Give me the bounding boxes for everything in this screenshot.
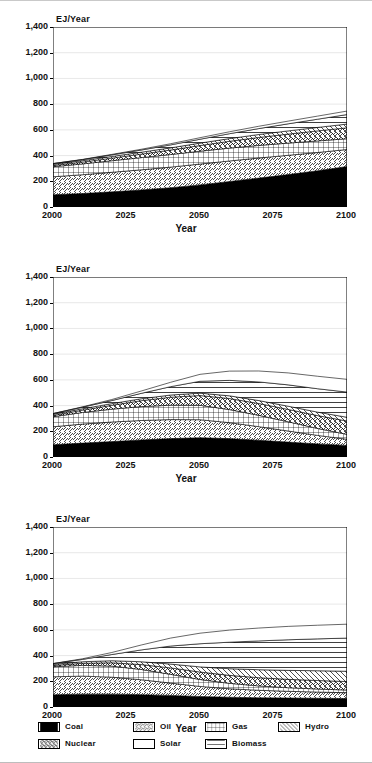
y-tick-label: 0 [0, 701, 48, 711]
y-tick-mark [50, 380, 53, 381]
legend-swatch-diagonal-back [278, 722, 300, 732]
y-tick-label: 1,000 [0, 72, 48, 82]
y-tick-label: 800 [0, 98, 48, 108]
y-tick-mark [50, 527, 53, 528]
y-tick-mark [50, 207, 53, 208]
y-tick-mark [50, 604, 53, 605]
y-tick-label: 1,200 [0, 547, 48, 557]
x-tick-label: 2025 [116, 210, 136, 220]
y-tick-label: 1,400 [0, 21, 48, 31]
y-tick-label: 1,400 [0, 271, 48, 281]
y-tick-mark [50, 181, 53, 182]
y-tick-mark [50, 354, 53, 355]
y-tick-label: 200 [0, 675, 48, 685]
legend-label: Nuclear [65, 739, 96, 748]
x-axis-label: Year [0, 223, 372, 234]
legend: Coal Oil [0, 718, 372, 758]
legend-item-biomass[interactable]: Biomass [205, 735, 267, 752]
y-tick-mark [50, 156, 53, 157]
legend-swatch-horizontal-lines [205, 739, 227, 749]
y-tick-mark [50, 431, 53, 432]
x-tick-label: 2100 [336, 460, 356, 470]
y-tick-mark [50, 328, 53, 329]
x-tick-label: 2075 [263, 210, 283, 220]
y-tick-label: 600 [0, 124, 48, 134]
legend-swatch-diagonal-cross [38, 739, 60, 749]
y-tick-mark [50, 303, 53, 304]
x-tick-label: 2100 [336, 210, 356, 220]
y-tick-label: 1,200 [0, 297, 48, 307]
legend-swatch-grid-crosshatch [205, 722, 227, 732]
figure-page: EJ/Year 1,4001,2001,00080060040020002000… [0, 0, 372, 763]
legend-item-nuclear[interactable]: Nuclear [38, 735, 96, 752]
y-tick-mark [50, 53, 53, 54]
y-tick-label: 1,000 [0, 572, 48, 582]
area-chart-svg-1 [53, 27, 347, 207]
x-tick-label: 2075 [263, 460, 283, 470]
y-tick-label: 1,200 [0, 47, 48, 57]
y-tick-label: 1,400 [0, 521, 48, 531]
x-tick-label: 2050 [189, 460, 209, 470]
y-tick-label: 800 [0, 598, 48, 608]
x-axis-label: Year [0, 473, 372, 484]
legend-label: Coal [65, 722, 83, 731]
y-tick-label: 1,000 [0, 322, 48, 332]
legend-label: Solar [160, 739, 181, 748]
y-tick-label: 200 [0, 175, 48, 185]
legend-swatch-blank-white [133, 739, 155, 749]
chart-panel-1: EJ/Year 1,4001,2001,00080060040020002000… [0, 0, 372, 250]
x-tick-label: 2000 [42, 210, 62, 220]
y-tick-mark [50, 130, 53, 131]
y-tick-label: 600 [0, 624, 48, 634]
legend-label: Hydro [305, 722, 329, 731]
legend-row-2: Nuclear Solar [0, 735, 372, 752]
plot-area-2 [53, 277, 347, 457]
y-tick-mark [50, 277, 53, 278]
y-axis-label: EJ/Year [56, 514, 90, 524]
legend-item-oil[interactable]: Oil [133, 718, 171, 735]
y-tick-mark [50, 457, 53, 458]
y-tick-label: 600 [0, 374, 48, 384]
y-tick-label: 800 [0, 348, 48, 358]
chart-panel-3: EJ/Year 1,4001,2001,00080060040020002000… [0, 500, 372, 732]
y-tick-mark [50, 27, 53, 28]
legend-row-1: Coal Oil [0, 718, 372, 735]
y-tick-mark [50, 553, 53, 554]
y-axis-label: EJ/Year [56, 14, 90, 24]
y-tick-mark [50, 406, 53, 407]
y-tick-mark [50, 78, 53, 79]
y-tick-label: 200 [0, 425, 48, 435]
y-tick-label: 0 [0, 201, 48, 211]
plot-area-1 [53, 27, 347, 207]
area-chart-svg-2 [53, 277, 347, 457]
legend-label: Gas [232, 722, 248, 731]
legend-item-coal[interactable]: Coal [38, 718, 83, 735]
x-tick-label: 2050 [189, 210, 209, 220]
legend-item-hydro[interactable]: Hydro [278, 718, 329, 735]
legend-item-gas[interactable]: Gas [205, 718, 248, 735]
y-tick-label: 400 [0, 150, 48, 160]
plot-area-3 [53, 527, 347, 707]
legend-swatch-diagonal-forward [133, 722, 155, 732]
y-tick-label: 400 [0, 650, 48, 660]
x-tick-label: 2000 [42, 460, 62, 470]
y-tick-mark [50, 104, 53, 105]
legend-label: Oil [160, 722, 171, 731]
y-tick-mark [50, 681, 53, 682]
legend-swatch-solid-black [38, 722, 60, 732]
area-chart-svg-3 [53, 527, 347, 707]
legend-label: Biomass [232, 739, 267, 748]
legend-item-solar[interactable]: Solar [133, 735, 181, 752]
y-axis-label: EJ/Year [56, 264, 90, 274]
y-tick-mark [50, 578, 53, 579]
y-tick-mark [50, 707, 53, 708]
y-tick-mark [50, 630, 53, 631]
chart-panel-2: EJ/Year 1,4001,2001,00080060040020002000… [0, 250, 372, 500]
x-tick-label: 2025 [116, 460, 136, 470]
y-tick-label: 0 [0, 451, 48, 461]
y-tick-label: 400 [0, 400, 48, 410]
y-tick-mark [50, 656, 53, 657]
